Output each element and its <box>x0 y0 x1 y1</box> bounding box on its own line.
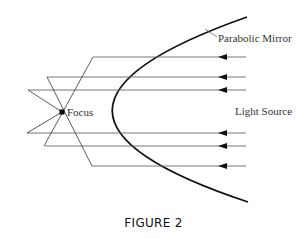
arrowhead-icons <box>218 54 227 169</box>
arrow-left-icon <box>218 130 227 136</box>
arrow-left-icon <box>218 87 227 93</box>
arrow-left-icon <box>218 54 227 60</box>
light-source-label: Light Source <box>235 105 292 117</box>
parabolic-mirror-diagram: Focus Parabolic Mirror Light Source <box>0 0 307 239</box>
arrow-left-icon <box>218 143 227 149</box>
mirror-label: Parabolic Mirror <box>218 32 292 44</box>
figure-caption: FIGURE 2 <box>0 216 307 230</box>
arrow-left-icon <box>218 74 227 80</box>
arrow-left-icon <box>218 163 227 169</box>
focus-point <box>60 110 65 115</box>
reflected-ray-3 <box>28 90 62 112</box>
parabolic-mirror-curve <box>112 17 248 202</box>
focus-label: Focus <box>67 106 93 118</box>
